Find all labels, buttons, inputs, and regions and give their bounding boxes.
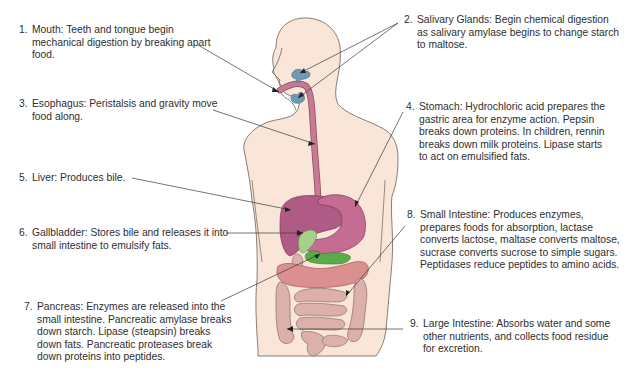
label-pancreas: 7. Pancreas: Enzymes are released into t…	[24, 301, 234, 364]
label-esophagus: 3. Esophagus: Peristalsis and gravity mo…	[19, 98, 219, 123]
label-text: Liver: Produces bile.	[19, 172, 149, 185]
label-number: 7.	[24, 301, 33, 314]
label-gallbladder: 6. Gallbladder: Stores bile and releases…	[19, 227, 229, 252]
label-text: Stomach: Hydrochloric acid prepares the …	[406, 101, 606, 164]
label-text: Esophagus: Peristalsis and gravity move …	[19, 98, 219, 123]
label-text: Gallbladder: Stores bile and releases it…	[19, 227, 229, 252]
label-number: 3.	[19, 98, 28, 111]
label-text: Small Intestine: Produces enzymes, prepa…	[407, 209, 625, 272]
label-text: Pancreas: Enzymes are released into the …	[24, 301, 234, 364]
label-large-intestine: 9. Large Intestine: Absorbs water and so…	[410, 318, 620, 356]
label-text: Large Intestine: Absorbs water and some …	[410, 318, 620, 356]
label-number: 4.	[406, 101, 415, 114]
label-liver: 5. Liver: Produces bile.	[19, 172, 149, 185]
label-small-intestine: 8. Small Intestine: Produces enzymes, pr…	[407, 209, 625, 272]
digestive-system-diagram: 1. Mouth: Teeth and tongue begin mechani…	[0, 0, 627, 378]
label-salivary-glands: 2. Salivary Glands: Begin chemical diges…	[404, 14, 622, 52]
label-number: 1.	[19, 24, 28, 37]
label-number: 6.	[19, 227, 28, 240]
label-number: 8.	[407, 209, 416, 222]
label-number: 2.	[404, 14, 413, 27]
label-text: Mouth: Teeth and tongue begin mechanical…	[19, 24, 219, 62]
label-mouth: 1. Mouth: Teeth and tongue begin mechani…	[19, 24, 219, 62]
label-stomach: 4. Stomach: Hydrochloric acid prepares t…	[406, 101, 606, 164]
label-number: 5.	[19, 172, 28, 185]
label-text: Salivary Glands: Begin chemical digestio…	[404, 14, 622, 52]
label-number: 9.	[410, 318, 419, 331]
